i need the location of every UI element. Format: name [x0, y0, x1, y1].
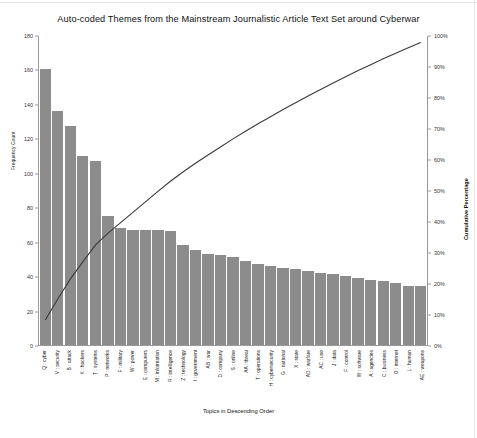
bar	[352, 278, 363, 345]
left-axis-tick-label: 100	[24, 171, 33, 177]
category-label-slot: O : internet	[390, 348, 403, 406]
right-axis-tick-mark	[428, 160, 431, 161]
bar-slot	[402, 36, 415, 345]
bar-slot	[139, 36, 152, 345]
bar-slot	[289, 36, 302, 345]
right-axis-tick-label: 70%	[434, 126, 445, 132]
bar-slot	[364, 36, 377, 345]
bar-slot	[377, 36, 390, 345]
bar-slot	[152, 36, 165, 345]
bar-slot	[227, 36, 240, 345]
right-axis-tick-label: 80%	[434, 95, 445, 101]
bar	[252, 264, 263, 345]
bar-slot	[127, 36, 140, 345]
bar-slot	[327, 36, 340, 345]
category-axis-tick-label: W : software	[356, 350, 361, 377]
bar-slot	[314, 36, 327, 345]
category-axis-tick-label: K : hackers	[80, 350, 85, 374]
category-label-slot: Z : technology	[176, 348, 189, 406]
bar	[240, 261, 251, 345]
bar	[415, 286, 426, 345]
category-label-slot: J : data	[327, 348, 340, 406]
category-axis-tick-label: AC : use	[319, 350, 324, 369]
left-axis-tick-label: 140	[24, 102, 33, 108]
bar-slot	[239, 36, 252, 345]
category-axis-tick-label: Z : technology	[180, 350, 185, 381]
bar	[115, 228, 126, 345]
category-label-slot: G : national	[277, 348, 290, 406]
category-axis-tick-label: AE : weapons	[419, 350, 424, 380]
bar-slot	[264, 36, 277, 345]
bar-slot	[252, 36, 265, 345]
right-axis-tick-mark	[428, 191, 431, 192]
category-axis-tick-label: M : information	[155, 350, 160, 382]
right-axis-tick-label: 20%	[434, 281, 445, 287]
bar	[403, 286, 414, 345]
left-axis-tick-label: 180	[24, 33, 33, 39]
right-axis-tick-label: 50%	[434, 188, 445, 194]
left-axis-tick-label: 160	[24, 67, 33, 73]
category-axis-tick-label: AA : threat	[243, 350, 248, 373]
category-label-slot: M : information	[151, 348, 164, 406]
bar-slot	[52, 36, 65, 345]
bar-slot	[277, 36, 290, 345]
bar-slot	[214, 36, 227, 345]
category-label-slot: S : online	[227, 348, 240, 406]
category-label-slot: AD : warfare	[302, 348, 315, 406]
bar-slot	[302, 36, 315, 345]
right-axis-tick-label: 30%	[434, 250, 445, 256]
category-axis-tick-label: X : state	[293, 350, 298, 368]
bar	[65, 126, 76, 345]
bar	[140, 230, 151, 345]
bar-slot	[414, 36, 427, 345]
left-axis-title: Frequency Count	[10, 132, 16, 170]
category-label-slot: F : control	[340, 348, 353, 406]
left-axis-tick-label: 0	[30, 343, 33, 349]
bar	[215, 255, 226, 345]
bar-slot	[102, 36, 115, 345]
right-axis-tick-mark	[428, 67, 431, 68]
category-axis-tick-label: AD : warfare	[306, 350, 311, 377]
category-label-slot: C : business	[378, 348, 391, 406]
bar	[40, 69, 51, 345]
page-edge-top	[0, 2, 477, 3]
bar	[315, 273, 326, 345]
category-axis-tick-label: T : operations	[256, 350, 261, 380]
category-axis-tick-label: F : control	[344, 350, 349, 372]
bar	[90, 161, 101, 345]
category-axis-labels: Q : cyberV : securityB : attackK : hacke…	[38, 348, 428, 406]
bar	[190, 250, 201, 345]
bar-slot	[202, 36, 215, 345]
category-label-slot: D : company	[214, 348, 227, 406]
right-axis-tick-mark	[428, 98, 431, 99]
bar	[102, 216, 113, 345]
category-axis-tick-label: O : internet	[394, 350, 399, 374]
bar-slot	[89, 36, 102, 345]
category-label-slot: W : power	[126, 348, 139, 406]
category-axis-tick-label: J : data	[331, 350, 336, 366]
category-label-slot: I : government	[189, 348, 202, 406]
bar	[277, 268, 288, 346]
category-axis-tick-label: C : business	[381, 350, 386, 377]
category-axis-tick-label: L : human	[407, 350, 412, 372]
category-label-slot: T : operations	[252, 348, 265, 406]
bar-slot	[352, 36, 365, 345]
category-axis-tick-label: G : national	[281, 350, 286, 375]
bar	[327, 274, 338, 345]
category-label-slot: F : military	[113, 348, 126, 406]
category-label-slot: R : intelligence	[164, 348, 177, 406]
left-axis-tick-label: 120	[24, 136, 33, 142]
category-label-slot: E : computers	[139, 348, 152, 406]
category-axis-tick-label: T : systems	[92, 350, 97, 375]
category-axis-tick-label: P : networks	[105, 350, 110, 377]
chart-title: Auto-coded Themes from the Mainstream Jo…	[0, 14, 477, 24]
category-label-slot: L : human	[403, 348, 416, 406]
right-axis-tick-mark	[428, 315, 431, 316]
category-axis-tick-label: B : attack	[67, 350, 72, 370]
bar-slot	[339, 36, 352, 345]
category-label-slot: A : agencies	[365, 348, 378, 406]
right-axis-tick-label: 90%	[434, 64, 445, 70]
right-axis-tick-label: 0%	[434, 343, 442, 349]
bar	[365, 280, 376, 345]
right-axis-tick-label: 40%	[434, 219, 445, 225]
